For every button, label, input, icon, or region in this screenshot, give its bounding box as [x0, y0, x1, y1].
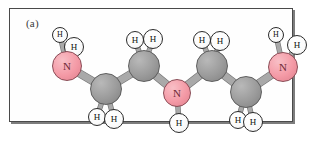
atom-label-h6b: H	[250, 118, 257, 127]
atom-label-h3b: H	[150, 35, 157, 44]
atom-label-h6a: H	[235, 116, 242, 125]
atom-c3-c	[196, 50, 228, 82]
atom-h2b-h: H	[104, 109, 124, 129]
atom-label-n1: N	[63, 61, 71, 72]
atom-label-n3: N	[279, 62, 287, 73]
atom-h5b-h: H	[210, 31, 230, 51]
atom-c4-c	[230, 76, 262, 108]
atom-label-h7a: H	[273, 31, 279, 39]
atom-label-h5b: H	[217, 37, 224, 46]
atom-label-h5a: H	[199, 36, 206, 45]
atom-n1-n: N	[52, 51, 82, 81]
atom-h3b-h: H	[143, 29, 163, 49]
figure-frame: (a) HHHHHHHHHHHHHNNN	[9, 8, 293, 122]
atom-label-h7b: H	[294, 41, 301, 50]
atom-h6b-h: H	[243, 112, 263, 132]
atom-label-h1b: H	[71, 43, 78, 52]
atom-c1-c	[90, 73, 122, 105]
atom-n2-n: N	[163, 79, 191, 107]
atom-c2-c	[128, 50, 160, 82]
atom-label-h2a: H	[94, 113, 101, 122]
atom-label-n2: N	[173, 88, 181, 99]
atom-label-h2b: H	[111, 115, 118, 124]
figure-root: (a) HHHHHHHHHHHHHNNN	[0, 0, 312, 141]
atom-h7a-h: H	[268, 27, 284, 43]
atom-n3-n: N	[268, 52, 298, 82]
atom-h5a-h: H	[193, 31, 211, 49]
atom-label-h4: H	[176, 119, 183, 128]
atom-h4-h: H	[169, 113, 189, 133]
atom-h3a-h: H	[126, 31, 144, 49]
atom-label-h3a: H	[132, 36, 139, 45]
atom-h7b-h: H	[287, 35, 307, 55]
atom-label-h1a: H	[57, 31, 63, 39]
